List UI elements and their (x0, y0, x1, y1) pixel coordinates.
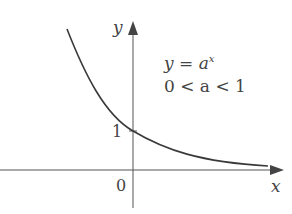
y-tick-label: 1 (112, 124, 122, 140)
x-axis-label: x (271, 178, 281, 195)
chart-canvas (0, 0, 292, 214)
x-axis-arrow-icon (270, 165, 284, 175)
y-axis-arrow-icon (128, 21, 138, 35)
equation-label: y = ax (164, 54, 214, 72)
y-axis-label: y (113, 19, 123, 36)
equation-base: y = a (164, 53, 209, 73)
exponential-curve (67, 29, 268, 166)
equation-exponent: x (209, 53, 215, 64)
condition-label: 0 < a < 1 (164, 78, 246, 95)
origin-label: 0 (116, 178, 126, 194)
